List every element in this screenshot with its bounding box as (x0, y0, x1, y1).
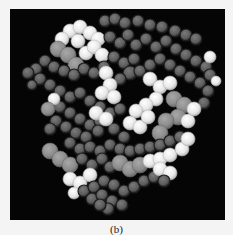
atom-sphere-dark (92, 125, 104, 137)
atom-sphere-dark (116, 199, 128, 211)
atom-sphere-dark (169, 25, 181, 37)
atom-sphere-light (83, 168, 97, 182)
atom-sphere-dark (190, 33, 202, 45)
atom-sphere-dark (158, 175, 170, 187)
atom-sphere-dark (140, 33, 152, 45)
atom-sphere-dark (144, 19, 156, 31)
atoms-layer (22, 13, 221, 215)
atom-sphere-dark (74, 87, 86, 99)
atom-sphere-dark (22, 67, 34, 79)
atom-sphere-light (95, 48, 109, 62)
atom-sphere-dark (118, 131, 130, 143)
atom-sphere-dark (128, 53, 140, 65)
atom-sphere-dark (202, 85, 214, 97)
atom-sphere-dark (44, 123, 56, 135)
atom-sphere-light (107, 90, 121, 104)
atom-sphere-light (211, 76, 221, 86)
atom-sphere-light (163, 76, 177, 90)
atom-sphere-light (204, 51, 216, 63)
atom-sphere-dark (27, 80, 37, 90)
atom-sphere-light (187, 102, 201, 116)
atom-sphere-dark (156, 21, 168, 33)
atom-sphere-dark (94, 199, 106, 211)
atom-sphere-light (141, 110, 155, 124)
atom-sphere-dark (122, 29, 134, 41)
atom-sphere-light (99, 112, 113, 126)
atom-sphere-light (71, 34, 85, 48)
atom-sphere-mid (41, 102, 55, 116)
atom-sphere-dark (132, 15, 144, 27)
atom-sphere-dark (119, 17, 131, 29)
space-filling-protein-model (10, 9, 225, 220)
figure-caption: (b) (0, 223, 233, 235)
atom-sphere-light (181, 132, 195, 146)
atom-sphere-dark (114, 103, 126, 115)
molecular-model-panel (10, 9, 225, 220)
atom-sphere-dark (160, 35, 172, 47)
